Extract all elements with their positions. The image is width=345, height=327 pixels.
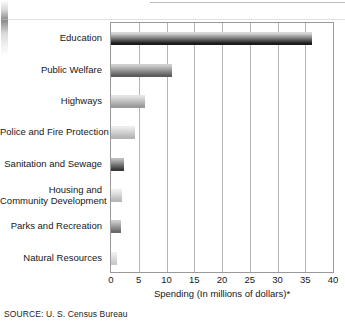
bar-row <box>111 126 335 139</box>
x-tick-label: 20 <box>217 274 228 286</box>
bar <box>111 64 172 77</box>
bar <box>111 95 145 108</box>
x-tick-label: 0 <box>108 274 113 286</box>
plot-area <box>110 22 334 273</box>
bar <box>111 32 312 45</box>
category-label-line: Housing and <box>0 184 102 195</box>
x-tick-label: 25 <box>244 274 255 286</box>
bar <box>111 252 117 265</box>
bar-row <box>111 95 335 108</box>
x-tick-label: 30 <box>272 274 283 286</box>
category-label-line: Police and Fire Protection <box>0 126 102 137</box>
x-tick-label: 10 <box>161 274 172 286</box>
bar-row <box>111 64 335 77</box>
x-axis-tick-labels: 0510152025303540 <box>110 274 334 288</box>
gridline <box>194 23 195 272</box>
x-tick-label: 35 <box>300 274 311 286</box>
gridline <box>278 23 279 272</box>
x-axis-title: Spending (In millions of dollars)* <box>110 288 334 300</box>
bar-row <box>111 189 335 202</box>
gridline <box>305 23 306 272</box>
bar-row <box>111 158 335 171</box>
bar-chart: EducationPublic WelfareHighwaysPolice an… <box>0 0 345 327</box>
category-label: Natural Resources <box>0 252 106 263</box>
gridline <box>222 23 223 272</box>
category-label: Public Welfare <box>0 64 106 75</box>
x-tick-label: 15 <box>189 274 200 286</box>
category-label: Education <box>0 32 106 43</box>
bar <box>111 126 135 139</box>
bar <box>111 220 121 233</box>
category-label: Highways <box>0 95 106 106</box>
gridline <box>167 23 168 272</box>
category-label: Police and Fire Protection <box>0 126 106 137</box>
category-label: Sanitation and Sewage <box>0 158 106 169</box>
category-label: Housing andCommunity Development <box>0 184 106 206</box>
category-label-line: Natural Resources <box>0 252 102 263</box>
bar <box>111 189 122 202</box>
bar-row <box>111 32 335 45</box>
x-tick-label: 40 <box>328 274 339 286</box>
source-note: SOURCE: U. S. Census Bureau <box>4 309 128 320</box>
gridline <box>139 23 140 272</box>
category-label: Parks and Recreation <box>0 220 106 231</box>
bar-row <box>111 220 335 233</box>
x-tick-label: 5 <box>136 274 141 286</box>
category-label-line: Highways <box>0 95 102 106</box>
bar <box>111 158 124 171</box>
category-label-line: Parks and Recreation <box>0 220 102 231</box>
gridline <box>250 23 251 272</box>
category-label-line: Sanitation and Sewage <box>0 158 102 169</box>
category-label-line: Education <box>0 32 102 43</box>
category-label-line: Public Welfare <box>0 64 102 75</box>
category-label-line: Community Development <box>0 195 102 206</box>
bar-row <box>111 252 335 265</box>
category-axis-labels: EducationPublic WelfareHighwaysPolice an… <box>0 22 106 273</box>
